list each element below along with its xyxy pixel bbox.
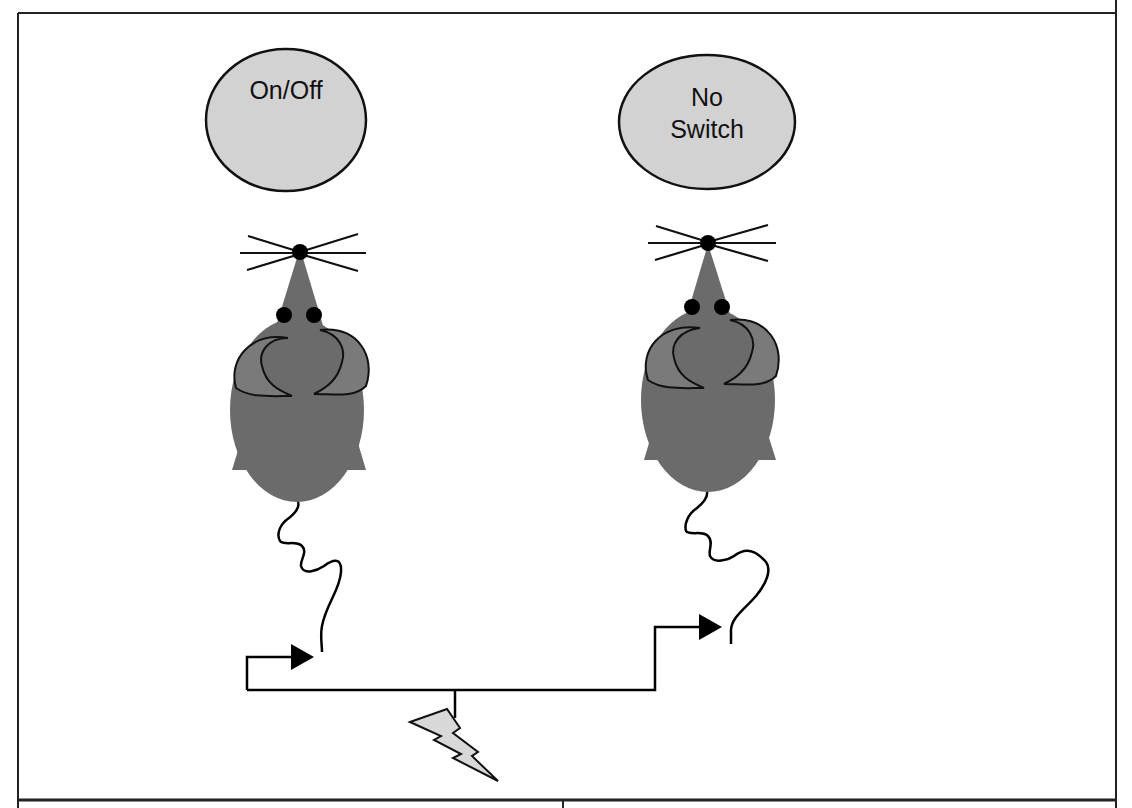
eye-icon [714,299,730,315]
label-on-off: On/Off [206,49,366,191]
eye-icon [276,307,292,323]
shock-wiring [247,627,700,718]
nose-icon [292,244,308,260]
footer-cell-left [19,801,562,808]
tail-electrode-right [685,492,768,644]
label-on-off-text: On/Off [249,76,322,104]
label-no-switch-line2: Switch [670,115,744,143]
eye-icon [684,299,700,315]
diagram-frame [18,0,1117,808]
right-condition-group: No Switch [619,55,795,644]
eye-icon [306,307,322,323]
lightning-bolt-icon [410,709,498,781]
mouse-left [230,234,369,652]
mouse-right [641,225,779,644]
label-no-switch-line1: No [691,83,723,111]
footer-cell-right [564,801,1115,808]
diagram-canvas: On/Off [0,0,1132,808]
label-no-switch: No Switch [619,55,795,189]
arrowhead-right-icon [699,614,722,640]
arrowhead-right-icon [291,644,314,670]
tail-electrode-left [278,502,341,652]
left-condition-group: On/Off [206,49,369,652]
nose-icon [700,235,716,251]
